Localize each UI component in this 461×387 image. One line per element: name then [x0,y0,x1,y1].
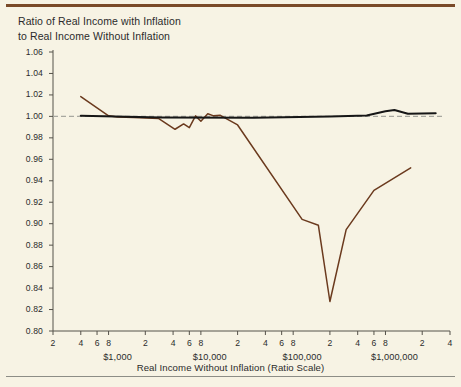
y-axis-tick-label: 0.90 [15,218,43,228]
y-axis-tick-label: 0.80 [15,326,43,336]
chart-figure: Ratio of Real Income with Inflation to R… [0,0,461,387]
series-line-1 [81,97,411,302]
y-axis-tick-label: 0.82 [15,304,43,314]
x-axis-tick-label: 4 [440,338,460,348]
x-axis-tick-label: 8 [191,338,211,348]
x-axis-tick-label: 8 [283,338,303,348]
x-axis-tick-label: 2 [228,338,248,348]
y-axis-tick-label: 0.94 [15,175,43,185]
x-axis-tick-label: 2 [412,338,432,348]
axis-lines [53,50,450,331]
x-axis-tick-label: 2 [135,338,155,348]
x-axis-title: Real Income Without Inflation (Ratio Sca… [0,362,461,373]
x-axis-tick-label: 2 [43,338,63,348]
y-axis-tick-label: 0.86 [15,261,43,271]
x-axis-tick-label: 8 [375,338,395,348]
y-axis-tick-label: 1.02 [15,89,43,99]
x-axis-decade-label: $10,000 [165,352,255,362]
y-axis-tick-label: 0.98 [15,132,43,142]
y-axis-tick-label: 1.06 [15,47,43,57]
y-axis-tick-label: 1.04 [15,68,43,78]
y-axis-tick-label: 0.84 [15,283,43,293]
x-axis-tick-label: 8 [99,338,119,348]
x-axis-tick-label: 2 [320,338,340,348]
y-axis-tick-label: 0.92 [15,197,43,207]
y-axis-tick-label: 0.96 [15,154,43,164]
x-axis-decade-label: $1,000,000 [349,352,439,362]
y-axis-tick-label: 1.00 [15,111,43,121]
x-axis-decade-label: $1,000 [73,352,163,362]
x-axis-decade-label: $100,000 [257,352,347,362]
y-axis-tick-label: 0.88 [15,240,43,250]
plot-area [0,0,461,387]
